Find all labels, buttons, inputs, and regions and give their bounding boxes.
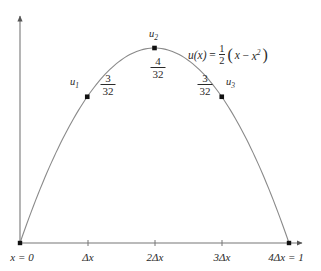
fraction-numerator: 4 <box>151 55 166 67</box>
equation-term-x: x <box>235 49 240 61</box>
data-point-u3 <box>219 94 224 99</box>
x-tick-label-1: Δx <box>82 252 93 263</box>
data-point-left-endpoint <box>18 241 22 245</box>
equation-lhs: u(x) <box>188 49 207 61</box>
value-fraction-u3: 3 32 <box>198 72 213 98</box>
x-tick-label-2: 2Δx <box>147 252 164 263</box>
equation-equals: = <box>209 49 217 61</box>
value-fraction-u2: 4 32 <box>151 55 166 81</box>
x-tick-label-4: 4Δx = 1 <box>268 252 303 263</box>
data-point-right-endpoint <box>287 241 291 245</box>
fraction-numerator: 3 <box>198 72 213 84</box>
node-label-u1: u1 <box>70 77 79 90</box>
data-point-u1 <box>85 94 90 99</box>
node-label-u3: u3 <box>226 77 235 90</box>
x-tick-label-3: 3Δx <box>214 252 231 263</box>
value-fraction-u1: 3 32 <box>101 72 116 98</box>
equation-term-x-squared: x2 <box>252 48 261 62</box>
fraction-denominator: 32 <box>101 84 116 97</box>
fraction-denominator: 32 <box>198 84 213 97</box>
node-label-u2: u2 <box>149 29 158 42</box>
equation-open-paren: ( <box>228 48 233 62</box>
data-point-u2 <box>152 46 157 51</box>
equation-annotation: u(x) = 1 2 ( x − x2 ) <box>188 43 268 67</box>
equation-minus: − <box>242 49 250 61</box>
equation-half-fraction: 1 2 <box>219 43 224 67</box>
parabola-figure: u1 u2 u3 3 32 4 32 3 32 u(x) = 1 2 ( x −… <box>0 0 321 271</box>
fraction-denominator: 32 <box>151 67 166 80</box>
fraction-numerator: 3 <box>101 72 116 84</box>
x-tick-label-origin: x = 0 <box>10 252 33 263</box>
plot-canvas <box>0 0 321 271</box>
equation-close-paren: ) <box>263 48 268 62</box>
